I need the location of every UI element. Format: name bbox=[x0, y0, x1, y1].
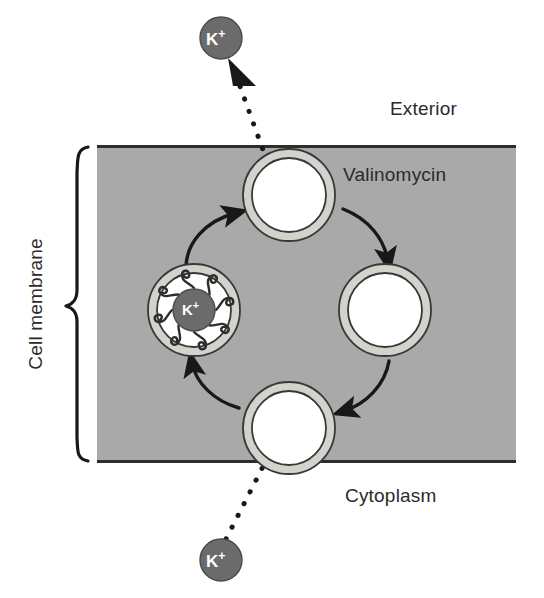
ion-bound-label: K+ bbox=[182, 299, 199, 318]
label-cell-membrane: Cell membrane bbox=[25, 224, 47, 384]
diagram-svg bbox=[0, 0, 544, 598]
arrowhead-exterior-release bbox=[228, 58, 256, 86]
carrier-bottom-releasing[interactable] bbox=[243, 382, 335, 474]
label-valinomycin: Valinomycin bbox=[343, 164, 446, 186]
figure-canvas: Exterior Valinomycin Cytoplasm Cell memb… bbox=[0, 0, 544, 598]
label-cytoplasm: Cytoplasm bbox=[345, 485, 437, 507]
label-exterior: Exterior bbox=[390, 98, 457, 120]
carrier-top-loading[interactable] bbox=[243, 149, 335, 241]
ion-cytoplasm-label: K+ bbox=[206, 549, 225, 572]
carrier-right-empty[interactable] bbox=[339, 264, 431, 356]
cell-membrane-brace bbox=[66, 147, 88, 461]
carrier-ring-inner bbox=[252, 391, 326, 465]
ion-exterior-label: K+ bbox=[206, 27, 225, 50]
carrier-ring-inner bbox=[252, 158, 326, 232]
carrier-ring-inner bbox=[348, 273, 422, 347]
